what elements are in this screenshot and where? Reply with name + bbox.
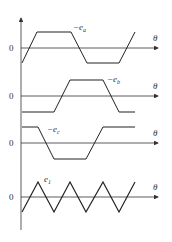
label-neg-eb: −eb [107, 74, 120, 85]
zero-label-b: 0 [9, 91, 14, 101]
theta-label-c: θ [153, 128, 158, 138]
panel-phase-b: 0 θ −eb [9, 74, 158, 112]
label-neg-ea: −ea [73, 22, 86, 33]
panel-sum-e1: 0 θ e1 [9, 174, 158, 212]
zero-label-e1: 0 [9, 192, 14, 202]
label-neg-ec: −ec [47, 124, 60, 135]
theta-label-b: θ [153, 81, 158, 91]
waveform-diagram: 0 θ −ea 0 θ −eb 0 θ −ec 0 θ e1 [0, 0, 172, 242]
theta-label-a: θ [153, 33, 158, 43]
panel-phase-c: 0 θ −ec [9, 124, 158, 159]
zero-label-c: 0 [9, 138, 14, 148]
label-e1: e1 [44, 174, 51, 185]
theta-label-e1: θ [153, 182, 158, 192]
waveform-a [22, 32, 135, 63]
zero-label-a: 0 [9, 43, 14, 53]
panel-phase-a: 0 θ −ea [9, 22, 158, 63]
